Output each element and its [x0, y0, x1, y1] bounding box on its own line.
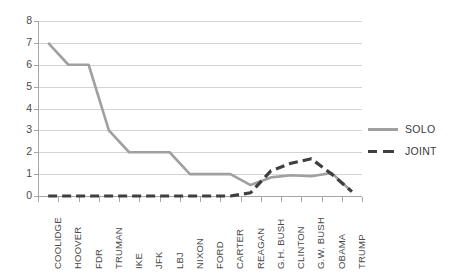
legend-item-joint[interactable]: JOINT: [368, 140, 452, 162]
legend-swatch-solo-icon: [368, 124, 398, 134]
legend-item-solo[interactable]: SOLO: [368, 118, 452, 140]
series-line-joint: [48, 159, 352, 196]
presidential-signing-statements-chart: 012345678 COOLIDGEHOOVERFDRTRUMANIKEJFKL…: [0, 0, 452, 274]
chart-legend: SOLO JOINT: [368, 118, 452, 162]
legend-label-joint: JOINT: [405, 145, 437, 157]
legend-label-solo: SOLO: [405, 123, 435, 135]
series-line-solo: [48, 43, 352, 192]
legend-swatch-joint-icon: [368, 146, 398, 156]
